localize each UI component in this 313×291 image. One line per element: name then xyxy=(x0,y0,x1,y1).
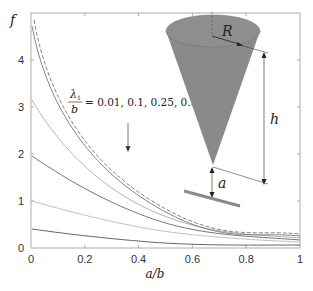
svg-text:3: 3 xyxy=(18,101,24,113)
svg-text:0.6: 0.6 xyxy=(185,253,200,265)
curve-lambda-0.1 xyxy=(32,100,300,238)
x-tick-labels: 0 0.2 0.4 0.6 0.8 1 xyxy=(28,253,303,265)
svg-text:b: b xyxy=(71,103,78,116)
radius-label: R xyxy=(221,23,233,39)
y-tick-labels: 0 1 2 3 4 xyxy=(18,54,24,254)
curve-lambda-0.5 xyxy=(32,201,300,242)
curve-lambda-0.01 xyxy=(32,26,300,236)
gap-label: a xyxy=(218,175,226,191)
curve-lambda-0.25 xyxy=(32,156,300,240)
cone-inset: R h a xyxy=(166,12,279,206)
height-label: h xyxy=(270,111,279,127)
x-axis-label: a/b xyxy=(146,267,165,281)
svg-text:λ: λ xyxy=(69,88,77,101)
y-axis-label: f xyxy=(9,12,18,28)
curves xyxy=(32,20,300,245)
svg-text:0.2: 0.2 xyxy=(77,253,92,265)
plot-frame xyxy=(31,13,300,248)
svg-text:1: 1 xyxy=(77,94,81,101)
svg-text:2: 2 xyxy=(18,148,24,160)
svg-text:1: 1 xyxy=(297,253,303,265)
svg-text:0: 0 xyxy=(18,242,24,254)
chart-figure: 0 0.2 0.4 0.6 0.8 1 0 1 2 3 4 f a/b λ 1 … xyxy=(0,0,313,291)
svg-text:4: 4 xyxy=(18,54,24,66)
svg-text:0.4: 0.4 xyxy=(131,253,146,265)
svg-text:1: 1 xyxy=(18,195,24,207)
arrow-down-icon xyxy=(126,123,131,152)
svg-text:0.8: 0.8 xyxy=(239,253,254,265)
curve-reference-dashed xyxy=(34,20,300,234)
svg-text:0: 0 xyxy=(28,253,34,265)
axis-ticks xyxy=(31,13,300,248)
